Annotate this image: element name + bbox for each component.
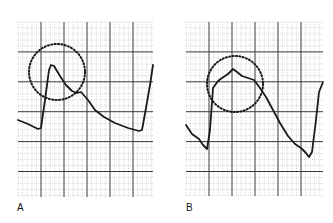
ecg-strips-canvas xyxy=(0,0,333,223)
panel-label-b: B xyxy=(186,202,193,213)
ecg-panel-b xyxy=(186,22,323,196)
ecg-panel-a xyxy=(18,22,153,197)
ecg-comparison-figure: A B xyxy=(0,0,333,223)
panel-label-a: A xyxy=(17,202,24,213)
major-grid-a xyxy=(18,22,153,197)
major-grid-b xyxy=(186,22,323,196)
